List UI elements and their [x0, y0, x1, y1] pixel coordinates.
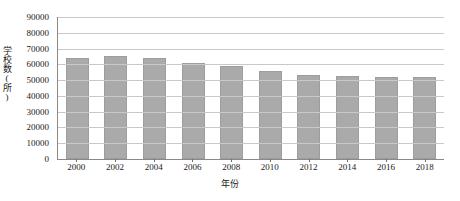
x-axis-tick-mark [76, 159, 77, 162]
x-axis-tick-mark [309, 159, 310, 162]
y-axis-tick-label: 80000 [27, 28, 50, 38]
y-axis-tick-label: 50000 [27, 75, 50, 85]
x-axis-tick-labels: 2000200220042006200820102012201420162018 [57, 162, 444, 172]
x-axis-tick-label: 2010 [251, 162, 290, 172]
gridline [58, 112, 444, 113]
bar-slot [135, 17, 174, 159]
bar-series [58, 17, 444, 159]
y-axis-tick-label: 40000 [27, 91, 50, 101]
bar[interactable] [336, 76, 359, 159]
gridline [58, 127, 444, 128]
x-axis-tick-text: 2004 [145, 162, 163, 172]
plot-area [57, 17, 444, 160]
x-axis-tick-text: 2018 [416, 162, 434, 172]
gridline [58, 49, 444, 50]
x-axis-tick-mark [115, 159, 116, 162]
bar[interactable] [297, 75, 320, 159]
x-axis-tick-mark [347, 159, 348, 162]
bar-slot [251, 17, 290, 159]
gridline [58, 33, 444, 34]
bar-slot [367, 17, 406, 159]
x-axis-tick-text: 2000 [67, 162, 85, 172]
gridline [58, 143, 444, 144]
bar-slot [97, 17, 136, 159]
x-axis-tick-label: 2008 [212, 162, 251, 172]
y-axis-tick-label: 60000 [27, 59, 50, 69]
gridline [58, 80, 444, 81]
x-axis-tick-text: 2002 [106, 162, 124, 172]
y-axis-tick-label: 70000 [27, 44, 50, 54]
x-axis-tick-mark [231, 159, 232, 162]
bar[interactable] [375, 77, 398, 159]
gridline [58, 17, 444, 18]
bar[interactable] [259, 71, 282, 159]
x-axis-tick-label: 2002 [96, 162, 135, 172]
y-axis-tick-label: 30000 [27, 107, 50, 117]
x-axis-tick-text: 2006 [183, 162, 201, 172]
x-axis-tick-text: 2008 [222, 162, 240, 172]
x-axis-tick-mark [192, 159, 193, 162]
y-axis: 学校数(所) 900008000070000600005000040000300… [0, 0, 53, 177]
x-axis-tick-text: 2010 [261, 162, 279, 172]
bar-chart-figure: 学校数(所) 900008000070000600005000040000300… [0, 0, 460, 201]
x-axis-tick-label: 2004 [134, 162, 173, 172]
y-axis-tick-label: 90000 [27, 12, 50, 22]
gridline [58, 96, 444, 97]
bar-slot [405, 17, 444, 159]
x-axis-tick-label: 2006 [173, 162, 212, 172]
x-axis-tick-label: 2018 [405, 162, 444, 172]
x-axis-tick-text: 2014 [338, 162, 356, 172]
x-axis-tick-mark [154, 159, 155, 162]
x-axis-tick-label: 2014 [328, 162, 367, 172]
x-axis-tick-label: 2016 [367, 162, 406, 172]
x-axis-tick-mark [386, 159, 387, 162]
y-axis-title: 学校数(所) [0, 46, 12, 102]
gridline [58, 64, 444, 65]
bar-slot [212, 17, 251, 159]
x-axis-tick-text: 2016 [377, 162, 395, 172]
y-axis-tick-label: 0 [45, 154, 50, 164]
x-axis-tick-label: 2000 [57, 162, 96, 172]
x-axis-tick-label: 2012 [289, 162, 328, 172]
y-axis-tick-label: 20000 [27, 122, 50, 132]
x-axis-tick-mark [425, 159, 426, 162]
x-axis-tick-mark [270, 159, 271, 162]
x-axis-tick-text: 2012 [300, 162, 318, 172]
bar-slot [328, 17, 367, 159]
bar-slot [290, 17, 329, 159]
x-axis-title: 年份 [0, 177, 460, 190]
bar-slot [58, 17, 97, 159]
y-axis-tick-label: 10000 [27, 138, 50, 148]
bar-slot [174, 17, 213, 159]
bar[interactable] [413, 77, 436, 159]
